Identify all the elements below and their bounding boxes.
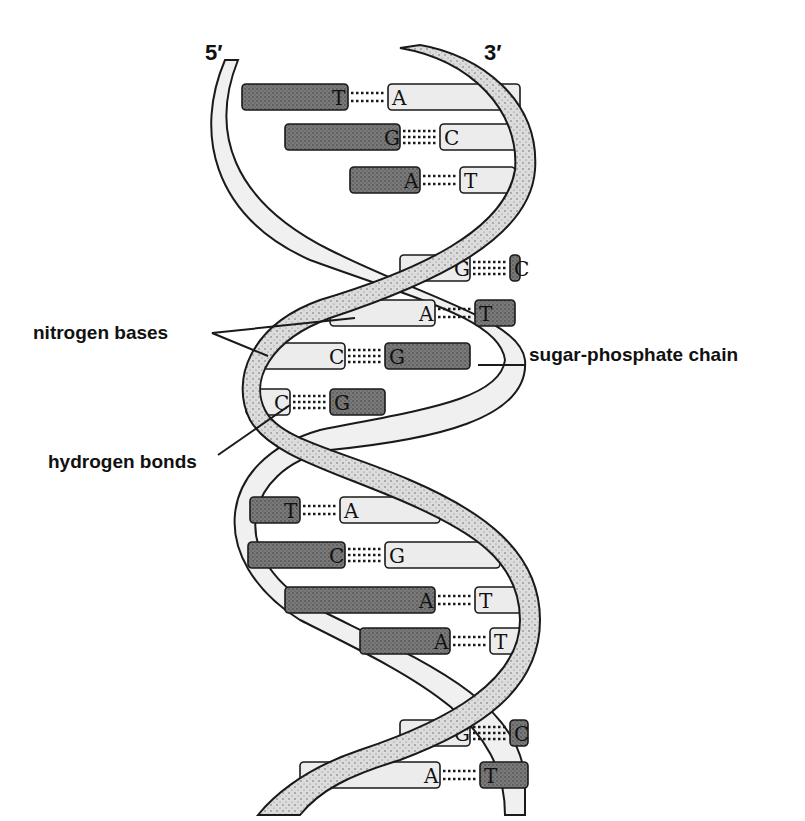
base-letter-right: T (494, 630, 508, 654)
base-letter-left: A (433, 630, 449, 654)
base-letter-right: A (391, 86, 407, 110)
base-letter-left: A (423, 764, 439, 788)
base-pair: CG (246, 389, 385, 415)
five-prime-end-label: 5′ (205, 40, 223, 66)
base-letter-right: C (514, 257, 529, 281)
base-letter-right: C (444, 126, 459, 150)
base-letter-right: G (389, 345, 405, 369)
base-letter-left: G (384, 126, 400, 150)
base-pair: TA (242, 84, 520, 110)
base-letter-right: G (389, 544, 405, 568)
nitrogen-base-left (285, 587, 435, 613)
sugar-phosphate-chain-label: sugar-phosphate chain (529, 344, 738, 366)
base-letter-left: A (418, 302, 434, 326)
base-letter-right: T (479, 589, 493, 613)
dna-diagram: TAGCATGCATCGCGTACGATATGCAT 5′ 3′ nitroge… (0, 0, 805, 821)
three-prime-end-label: 3′ (484, 40, 502, 66)
base-letter-left: A (418, 589, 434, 613)
base-letter-right: T (479, 302, 493, 326)
base-letter-left: T (332, 86, 346, 110)
base-letter-right: C (514, 722, 529, 746)
base-letter-right: A (343, 499, 359, 523)
base-letter-left: A (403, 169, 419, 193)
base-letter-right: G (334, 391, 350, 415)
base-letter-left: C (329, 345, 344, 369)
base-letter-left: T (284, 499, 298, 523)
base-letter-right: T (464, 169, 478, 193)
nitrogen-bases-label: nitrogen bases (33, 322, 168, 344)
base-pair: AT (360, 628, 525, 654)
base-pair: AT (285, 587, 525, 613)
base-pair: AT (350, 167, 515, 193)
dna-helix-illustration: TAGCATGCATCGCGTACGATATGCAT (0, 0, 805, 821)
base-pair: CG (248, 542, 500, 568)
base-pair: CG (262, 343, 470, 369)
nitrogen-base-left (285, 124, 400, 150)
base-letter-right: T (484, 764, 498, 788)
hydrogen-bonds-label: hydrogen bonds (48, 451, 197, 473)
base-pair: GC (285, 124, 525, 150)
base-letter-left: C (329, 544, 344, 568)
